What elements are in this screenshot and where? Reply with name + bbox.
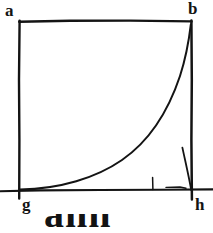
diagram-svg: [0, 0, 213, 233]
square-top-side: [19, 21, 191, 22]
bottom-text-fragment: ann: [44, 214, 112, 233]
bottom-text-clip: ann: [0, 214, 213, 233]
square-right-side: [191, 20, 192, 199]
vertex-label-b: b: [188, 0, 197, 17]
baseline-thick-mark: [166, 187, 186, 188]
vertex-label-g: g: [22, 196, 31, 213]
vertex-label-h: h: [195, 196, 204, 213]
vertex-label-a: a: [5, 2, 14, 19]
exponential-curve: [20, 25, 191, 190]
tangent-line: [182, 148, 191, 190]
figure-canvas: a b g h ann: [0, 0, 213, 233]
square-left-side: [19, 21, 20, 199]
